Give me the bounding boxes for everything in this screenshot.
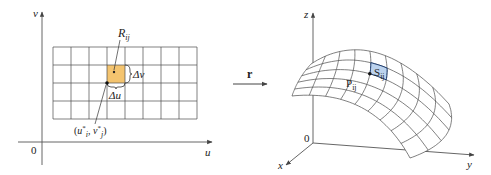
mapping-label: r [247,68,252,80]
patch-label: Sij [374,67,385,81]
y-axis-label: y [467,159,472,170]
sample-point-pointer-line [95,85,106,124]
origin-label-left: 0 [31,145,37,156]
delta-v-brace [125,65,132,83]
region-label-sub: ij [125,33,129,42]
x-axis-label: x [278,160,283,171]
sample-point-dot [105,81,109,85]
surface-panel [286,13,474,165]
z-axis-label: z [304,9,308,20]
x-axis [286,143,313,165]
point-p-ij [368,72,372,76]
y-axis [313,143,474,155]
parametric-surface-mesh [292,50,452,158]
highlighted-region-rij [107,65,125,83]
sample-point-label: (u*i, v*j) [74,125,107,139]
origin-label-right: 0 [304,133,310,144]
v-axis-label: v [33,8,38,19]
delta-v-label: Δv [133,69,144,80]
patch-label-sub: ij [380,72,384,81]
diagram-canvas [0,0,491,175]
delta-u-label: Δu [109,90,121,101]
region-center-dot [113,71,115,73]
point-label-sub: ij [352,83,356,92]
u-axis-label: u [205,147,211,158]
region-label: Rij [118,27,130,42]
paren-close: ) [103,125,106,136]
diagram-surface-parametrization: v u 0 Rij Δv Δu (u*i, v*j) r z x y 0 Pij… [0,0,491,175]
point-label: Pij [346,78,357,92]
